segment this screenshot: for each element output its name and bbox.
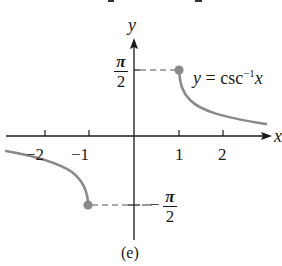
- x-tick-label-2: 2: [218, 146, 227, 163]
- cropped-text-fragment: [195, 0, 202, 2]
- minus-sign: −: [150, 196, 160, 213]
- figure-caption: (e): [121, 245, 139, 261]
- equation-argument: x: [255, 68, 263, 88]
- denominator: 2: [166, 208, 175, 225]
- x-tick-label-minus-2: −2: [26, 146, 44, 163]
- endpoint-lower: [83, 200, 92, 209]
- cropped-text-fragment: [108, 0, 114, 2]
- endpoint-upper: [174, 65, 183, 74]
- pi-symbol: π: [116, 53, 125, 70]
- denominator: 2: [117, 73, 126, 90]
- equation-y: y: [193, 68, 201, 88]
- y-tick-label-pi-over-2: π 2: [114, 53, 128, 90]
- pi-symbol: π: [165, 188, 174, 205]
- equation-equals: =: [206, 68, 216, 88]
- figure-root: y x −2 −1 1 2 π 2 − π 2 y = csc−1x (e): [0, 0, 282, 266]
- y-tick-label-neg-pi-over-2: π 2: [163, 188, 177, 225]
- x-axis-label: x: [274, 127, 282, 145]
- equation-superscript: −1: [243, 67, 255, 79]
- y-axis-label: y: [128, 16, 136, 34]
- equation-function: csc: [220, 68, 243, 88]
- x-tick-label-1: 1: [175, 146, 184, 163]
- plot-canvas: [0, 0, 282, 266]
- x-tick-label-minus-1: −1: [71, 146, 89, 163]
- equation-annotation: y = csc−1x: [193, 68, 263, 87]
